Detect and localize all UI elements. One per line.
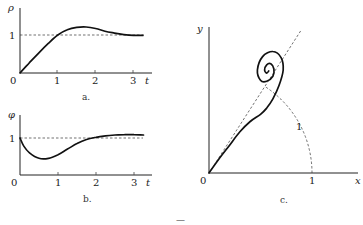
panel-b-y-tick-label-1: 1	[9, 133, 15, 144]
panel-a-y-label: ρ	[7, 2, 14, 13]
panel-a: ρ 1 0 1 2 3 t a.	[7, 2, 152, 102]
panel-b-x-tick-label-3: 3	[131, 177, 137, 188]
panel-b-x-tick-label-1: 1	[55, 177, 61, 188]
panel-c-x-tick-label-1: 1	[309, 175, 315, 186]
panel-c-arc-label: 1	[296, 121, 302, 132]
panel-c-origin-label: 0	[200, 175, 206, 186]
panel-c-curve	[209, 51, 283, 173]
panel-b-x-label: t	[146, 177, 151, 188]
panel-a-x-tick-label-2: 2	[92, 75, 98, 86]
panel-a-x-tick-label-3: 3	[130, 75, 136, 86]
panel-b: φ 1 0 1 2 3 t b.	[8, 109, 152, 204]
panel-c-reference-ray	[209, 29, 302, 173]
panel-a-x-tick-label-1: 1	[54, 75, 60, 86]
panel-a-curve	[20, 27, 143, 73]
figure-canvas: ρ 1 0 1 2 3 t a. φ 1 0 1 2 3 t b. y 0 1 …	[0, 0, 363, 225]
panel-b-origin-label: 0	[11, 177, 17, 188]
footer-mark: —	[176, 215, 185, 225]
panel-c-caption: c.	[280, 195, 288, 205]
panel-b-x-tick-label-2: 2	[93, 177, 99, 188]
panel-b-y-label: φ	[8, 109, 15, 120]
panel-a-x-label: t	[145, 75, 150, 86]
panel-a-y-tick-label-1: 1	[9, 30, 15, 41]
panel-c-x-label: x	[355, 175, 361, 186]
panel-c: y 0 1 x 1 c.	[196, 23, 361, 205]
panel-c-y-label: y	[196, 23, 203, 34]
panel-a-caption: a.	[82, 92, 90, 102]
panel-a-origin-label: 0	[10, 75, 16, 86]
panel-b-caption: b.	[83, 194, 92, 204]
